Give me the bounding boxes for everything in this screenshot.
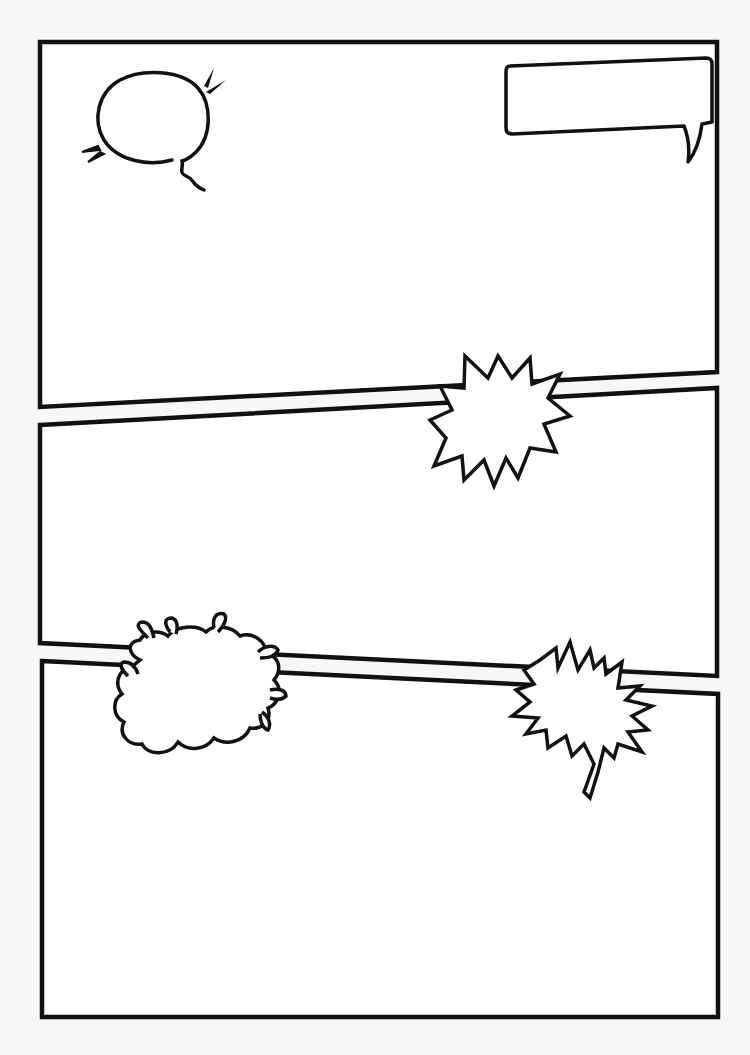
comic-page: Blank comic page template	[0, 0, 750, 1055]
comic-canvas	[0, 0, 750, 1055]
